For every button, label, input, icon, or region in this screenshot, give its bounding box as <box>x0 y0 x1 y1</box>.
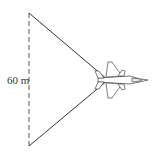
top-sight-line <box>29 13 108 80</box>
distance-label: 60 m <box>7 74 29 86</box>
diagram: 60 m <box>0 0 159 156</box>
bottom-sight-line <box>29 80 108 146</box>
airplane-icon <box>95 62 148 98</box>
